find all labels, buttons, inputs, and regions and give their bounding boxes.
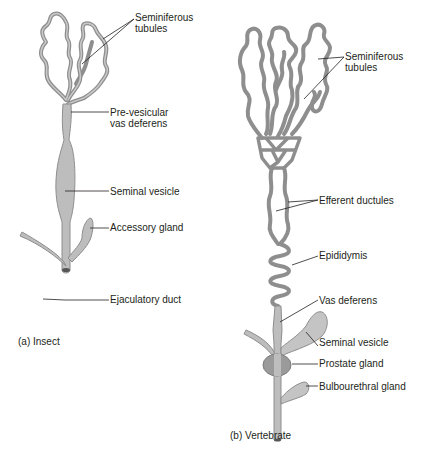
vertebrate-seminiferous-tubules — [240, 25, 330, 138]
insect-caption: (a) Insect — [18, 336, 60, 347]
vertebrate-bulbourethral-gland — [281, 382, 309, 404]
insect-diagram — [20, 14, 107, 273]
vertebrate-seminal-vesicle — [281, 312, 327, 356]
vertebrate-label-epididymis: Epididymis — [319, 250, 367, 261]
insect-accessory-gland — [68, 218, 93, 262]
label-line-1: Seminiferous — [135, 12, 193, 23]
vertebrate-diagram — [240, 25, 330, 442]
insect-seminal-vesicle — [56, 104, 75, 273]
vertebrate-epididymis — [270, 244, 289, 306]
label-line-2: vas deferens — [110, 118, 168, 129]
caption-text: Insect — [33, 336, 60, 347]
vertebrate-caption: (b) Vertebrate — [230, 430, 291, 441]
insect-label-accessory-gland: Accessory gland — [110, 222, 183, 233]
caption-letter: (b) — [230, 430, 242, 441]
insect-duct-opening — [62, 268, 70, 272]
vertebrate-rete-network — [258, 138, 300, 168]
vertebrate-label-vas-deferens: Vas deferens — [319, 295, 377, 306]
vertebrate-label-bulbourethral-gland: Bulbourethral gland — [319, 381, 406, 392]
vertebrate-label-seminiferous-tubules: Seminiferous tubules — [345, 51, 403, 73]
vertebrate-label-seminal-vesicle: Seminal vesicle — [319, 337, 388, 348]
caption-letter: (a) — [18, 336, 30, 347]
caption-text: Vertebrate — [245, 430, 291, 441]
label-line-2: tubules — [135, 23, 193, 34]
insect-label-prevesicular-vas-deferens: Pre-vesicular vas deferens — [110, 107, 168, 129]
label-line-1: Seminiferous — [345, 51, 403, 62]
vertebrate-label-efferent-ductules: Efferent ductules — [319, 195, 394, 206]
insect-label-ejaculatory-duct: Ejaculatory duct — [110, 294, 181, 305]
insect-label-seminiferous-tubules: Seminiferous tubules — [135, 12, 193, 34]
vertebrate-label-prostate-gland: Prostate gland — [319, 358, 384, 369]
label-line-2: tubules — [345, 62, 403, 73]
vertebrate-efferent-ductules — [269, 168, 289, 244]
label-line-1: Pre-vesicular — [110, 107, 168, 118]
insect-label-seminal-vesicle: Seminal vesicle — [110, 186, 179, 197]
